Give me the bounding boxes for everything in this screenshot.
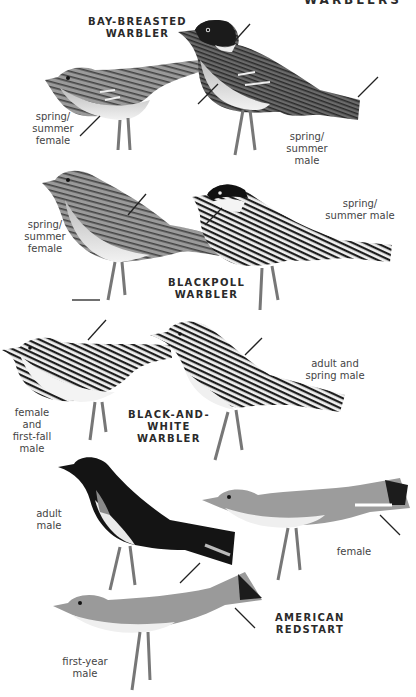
plumage-label-bw-female: female and first-fall male bbox=[4, 407, 60, 455]
page-header-title: WARBLERS bbox=[304, 0, 402, 7]
american-redstart-adult-male-illustration bbox=[58, 457, 235, 590]
arrow-bb-female-flank bbox=[80, 116, 100, 136]
field-guide-page: WARBLERS BAY-BREASTED WARBLER spring/ su… bbox=[0, 0, 416, 697]
plumage-label-bb-male: spring/ summer male bbox=[282, 131, 332, 167]
plumage-label-rs-female: female bbox=[334, 546, 374, 558]
plumage-label-bp-female: spring/ summer female bbox=[20, 219, 70, 255]
arrow-rs-firstyear-tail bbox=[235, 608, 255, 628]
arrow-rs-male-tail bbox=[180, 563, 200, 583]
species-name-blackpoll: BLACKPOLL WARBLER bbox=[168, 277, 245, 301]
species-name-black-and-white: BLACK-AND- WHITE WARBLER bbox=[128, 409, 210, 445]
bay-breasted-male-illustration bbox=[178, 20, 360, 155]
plumage-label-bp-male: spring/ summer male bbox=[325, 198, 395, 222]
bird-illustrations bbox=[0, 0, 416, 697]
plumage-label-rs-first-year-male: first-year male bbox=[60, 656, 110, 680]
american-redstart-female-illustration bbox=[202, 478, 410, 580]
arrow-bb-male-tail bbox=[358, 77, 378, 97]
plumage-label-bb-female: spring/ summer female bbox=[28, 111, 78, 147]
species-name-bay-breasted: BAY-BREASTED WARBLER bbox=[88, 16, 187, 40]
arrow-bw-male-back bbox=[245, 338, 262, 355]
plumage-label-rs-adult-male: adult male bbox=[34, 508, 64, 532]
arrow-rs-female-tail bbox=[380, 515, 400, 535]
species-name-american-redstart: AMERICAN REDSTART bbox=[275, 612, 345, 636]
arrow-bw-female-crown bbox=[88, 320, 106, 340]
plumage-label-bw-male: adult and spring male bbox=[305, 358, 365, 382]
